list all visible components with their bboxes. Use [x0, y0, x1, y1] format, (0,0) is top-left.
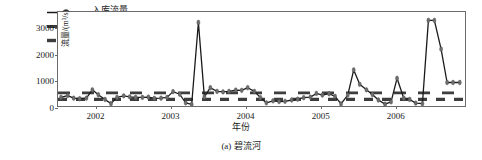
y-tick-label: 3000: [36, 24, 54, 33]
y-tick-label: 0: [50, 104, 55, 113]
x-tick-label: 2006: [387, 111, 405, 121]
data-point-marker: [414, 101, 417, 106]
data-point-marker: [352, 68, 355, 73]
data-point-marker: [278, 99, 281, 104]
y-tick-label: 1000: [36, 77, 54, 86]
data-point-marker: [402, 96, 405, 101]
data-point-marker: [85, 96, 88, 101]
figure-caption: (a) 碧流河: [0, 141, 482, 152]
data-point-marker: [72, 96, 75, 101]
x-tick-mark: [246, 106, 247, 109]
data-point-marker: [160, 96, 163, 101]
data-point-marker: [334, 94, 337, 99]
x-tick-mark: [171, 106, 172, 109]
data-point-marker: [171, 89, 174, 94]
data-point-marker: [184, 100, 187, 105]
data-point-marker: [240, 88, 243, 93]
data-point-marker: [203, 94, 206, 99]
data-point-marker: [408, 97, 411, 102]
data-point-marker: [339, 102, 342, 106]
data-point-marker: [283, 99, 286, 104]
x-tick-label: 2005: [312, 111, 330, 121]
x-tick-mark: [321, 106, 322, 109]
data-point-marker: [446, 80, 449, 85]
data-point-marker: [59, 95, 62, 100]
data-point-marker: [104, 97, 107, 102]
data-point-marker: [109, 101, 112, 106]
data-point-marker: [309, 95, 312, 100]
data-point-marker: [190, 102, 193, 106]
data-point-marker: [315, 91, 318, 96]
data-point-marker: [377, 98, 380, 103]
data-point-marker: [122, 93, 125, 98]
plot-svg: [58, 12, 465, 106]
y-tick-mark: [55, 108, 58, 109]
y-tick-mark: [55, 55, 58, 56]
data-point-marker: [234, 88, 237, 93]
data-point-marker: [66, 93, 69, 98]
data-point-marker: [134, 95, 137, 100]
data-point-marker: [433, 18, 436, 23]
data-point-marker: [302, 95, 305, 100]
data-point-marker: [221, 90, 224, 95]
data-point-marker: [321, 93, 324, 98]
y-tick-label: 2000: [36, 50, 54, 59]
x-tick-label: 2003: [162, 111, 180, 121]
x-tick-label: 2004: [237, 111, 255, 121]
x-axis-label: 年份: [0, 122, 482, 133]
data-point-marker: [440, 47, 443, 52]
data-point-marker: [458, 80, 461, 85]
data-point-marker: [227, 89, 230, 94]
x-tick-label: 2002: [87, 111, 105, 121]
data-point-marker: [216, 89, 219, 94]
data-point-marker: [396, 76, 399, 81]
y-tick-mark: [55, 28, 58, 29]
data-point-marker: [128, 94, 131, 99]
data-point-marker: [197, 20, 200, 25]
data-point-marker: [358, 82, 361, 87]
data-point-marker: [141, 95, 144, 100]
data-point-marker: [452, 80, 455, 85]
data-point-marker: [259, 95, 262, 100]
data-point-marker: [97, 92, 100, 97]
data-point-marker: [427, 18, 430, 23]
data-point-marker: [346, 93, 349, 98]
x-tick-mark: [96, 106, 97, 109]
data-point-marker: [153, 96, 156, 101]
x-tick-mark: [396, 106, 397, 109]
data-point-marker: [91, 87, 94, 92]
data-point-marker: [165, 95, 168, 100]
data-point-marker: [272, 98, 275, 103]
data-point-marker: [209, 85, 212, 90]
data-point-marker: [78, 96, 81, 101]
plot-area: 流量/(m³/s) 010002000300020022003200420052…: [57, 11, 466, 107]
data-point-marker: [296, 97, 299, 102]
data-point-marker: [421, 101, 424, 106]
data-point-marker: [178, 92, 181, 97]
data-point-marker: [253, 89, 256, 94]
data-point-marker: [384, 102, 387, 106]
data-point-marker: [290, 98, 293, 103]
data-point-marker: [246, 85, 249, 90]
y-tick-mark: [55, 81, 58, 82]
data-point-marker: [371, 92, 374, 97]
data-point-marker: [328, 91, 331, 96]
data-point-marker: [265, 100, 268, 105]
figure-container: 入库流量 枯水期分界线 最小生态径流 流量/(m³/s): [0, 0, 482, 160]
data-point-marker: [365, 87, 368, 92]
data-point-marker: [115, 95, 118, 100]
data-point-marker: [147, 95, 150, 100]
data-point-marker: [390, 99, 393, 104]
